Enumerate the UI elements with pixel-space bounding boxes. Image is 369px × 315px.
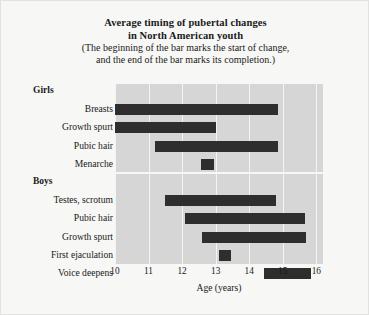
row-label-breasts: Breasts <box>13 103 113 114</box>
x-tick-label-16: 16 <box>306 266 326 276</box>
bar-girls-menarche <box>201 159 214 170</box>
gridline-16 <box>316 84 317 264</box>
group-divider <box>115 172 323 174</box>
row-label-growth-spurt: Growth spurt <box>13 231 113 242</box>
bar-boys-pubic-hair <box>185 213 304 224</box>
chart-subtitle-line-2: and the end of the bar marks its complet… <box>1 54 369 66</box>
plot-area <box>115 84 323 264</box>
x-tick-label-10: 10 <box>105 266 125 276</box>
x-tick-label-12: 12 <box>172 266 192 276</box>
x-tick-label-14: 14 <box>239 266 259 276</box>
x-tick-label-15: 15 <box>273 266 293 276</box>
group-heading-boys: Boys <box>33 176 53 186</box>
group-heading-girls: Girls <box>33 85 54 95</box>
x-axis-ticks: 10111213141516 <box>115 266 323 280</box>
chart-title-block: Average timing of pubertal changes in No… <box>1 17 369 67</box>
row-label-voice-deepens: Voice deepens <box>13 267 113 278</box>
chart-title-line-1: Average timing of pubertal changes <box>1 17 369 30</box>
x-axis-title: Age (years) <box>115 282 323 293</box>
row-label-menarche: Menarche <box>13 158 113 169</box>
chart-subtitle-line-1: (The beginning of the bar marks the star… <box>1 42 369 54</box>
bar-girls-pubic-hair <box>155 141 277 152</box>
chart-figure: Average timing of pubertal changes in No… <box>0 0 369 315</box>
chart-title-line-2: in North American youth <box>1 30 369 43</box>
bar-girls-breasts <box>115 104 278 115</box>
row-label-growth-spurt: Growth spurt <box>13 121 113 132</box>
bar-boys-growth-spurt <box>202 232 306 243</box>
bar-girls-growth-spurt <box>115 122 216 133</box>
bar-boys-first-ejaculation <box>219 250 231 261</box>
row-label-first-ejaculation: First ejaculation <box>13 249 113 260</box>
x-tick-label-13: 13 <box>206 266 226 276</box>
bar-boys-testes-scrotum <box>165 195 276 206</box>
row-label-testes-scrotum: Testes, scrotum <box>13 194 113 205</box>
row-label-pubic-hair: Pubic hair <box>13 212 113 223</box>
x-tick-label-11: 11 <box>139 266 159 276</box>
category-label-column: GirlsBreastsGrowth spurtPubic hairMenarc… <box>13 84 113 264</box>
row-label-pubic-hair: Pubic hair <box>13 140 113 151</box>
